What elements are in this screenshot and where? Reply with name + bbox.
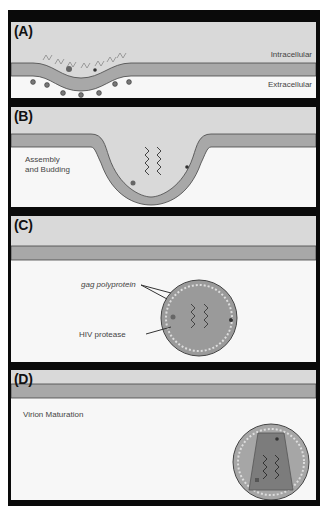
virion-maturation-label: Virion Maturation: [23, 410, 83, 420]
hiv-protease-label: HIV protease: [79, 330, 126, 340]
panel-a: (A) Intracellular Extracellular: [11, 22, 316, 98]
panel-d-illustration: [11, 370, 316, 500]
panel-c-illustration: [11, 216, 316, 362]
panel-b-label: (B): [14, 108, 33, 124]
panel-d: (D) Virion Maturation: [11, 370, 316, 500]
panel-c: (C) gag polyprotein HIV protease: [11, 216, 316, 362]
immature-virion: [161, 280, 237, 356]
hiv-lifecycle-figure: (A) Intracellular Extracellular (B) Asse…: [8, 10, 320, 506]
extracellular-label: Extracellular: [268, 80, 312, 90]
panel-d-label: (D): [14, 371, 33, 387]
panel-a-label: (A): [14, 23, 33, 39]
panel-b: (B) Assembly and Budding: [11, 107, 316, 207]
intracellular-label: Intracellular: [271, 50, 312, 60]
assembly-budding-label: Assembly and Budding: [25, 155, 70, 175]
gag-polyprotein-label: gag polyprotein: [81, 280, 136, 290]
panel-c-label: (C): [14, 217, 33, 233]
mature-virion: [233, 424, 309, 500]
